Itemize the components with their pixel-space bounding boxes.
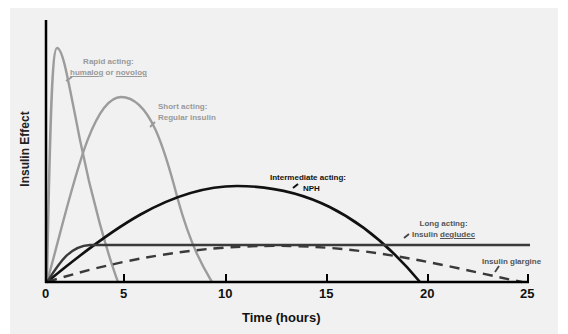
y-axis-title: Insulin Effect [18,106,32,192]
x-tick-label-10: 10 [218,286,232,301]
label-rapid-line2: humalog or novolog [70,67,147,78]
label-or: or [103,68,115,77]
label-glargine: Insulin glargine [482,257,541,266]
short-acting-curve [47,97,212,282]
label-short-line2: Regular insulin [158,112,216,123]
degludec-link: degludec [440,230,475,239]
label-rapid-acting: Rapid acting: humalog or novolog [70,56,147,78]
x-tick-label-5: 5 [120,286,127,301]
x-tick-label-15: 15 [319,286,333,301]
label-intermediate-acting: Intermediate acting: NPH [270,172,346,194]
glargine-leader [495,266,499,272]
humalog-link: humalog [70,68,103,77]
label-rapid-line1: Rapid acting: [70,56,147,67]
label-short-acting: Short acting: Regular insulin [158,101,216,123]
novolog-link: novolog [116,68,147,77]
x-tick-label-0: 0 [42,286,49,301]
label-nph-line1: Intermediate acting: [270,172,346,183]
glargine-dashed-curve [47,246,522,282]
x-tick-label-20: 20 [420,286,434,301]
x-axis-title: Time (hours) [242,310,321,325]
label-long-line2: Insulin degludec [412,229,475,240]
label-long-acting: Long acting: Insulin degludec [412,218,475,240]
label-insulin: Insulin [412,230,440,239]
insulin-chart [0,0,568,334]
label-long-line1: Long acting: [412,218,475,229]
x-tick-label-25: 25 [520,286,534,301]
label-nph-line2: NPH [270,183,346,194]
long-leader [404,234,409,238]
label-short-line1: Short acting: [158,101,216,112]
